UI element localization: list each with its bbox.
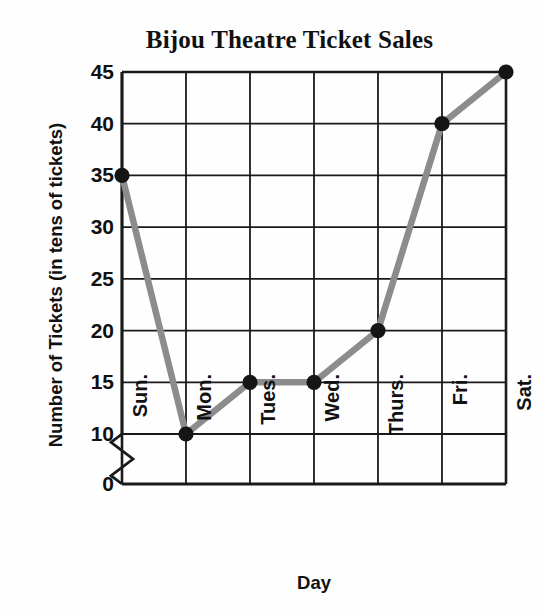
x-tick-label: Sat. [514,374,534,494]
x-tick-label: Mon. [194,374,214,494]
x-tick-label: Wed. [322,374,342,494]
x-tick-label: Fri. [450,374,470,494]
x-tick-label: Tues. [258,374,278,494]
chart-container: Bijou Theatre Ticket Sales Number of Tic… [0,0,543,616]
x-tick-label: Thurs. [386,374,406,494]
x-axis-tick-labels: Sun.Mon.Tues.Wed.Thurs.Fri.Sat. [0,0,543,616]
x-tick-label: Sun. [130,374,150,494]
